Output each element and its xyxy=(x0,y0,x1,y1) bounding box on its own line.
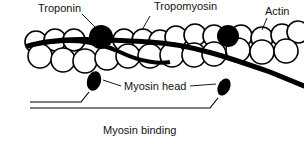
troponin-complex xyxy=(89,25,113,49)
actin-bead xyxy=(51,48,75,72)
myosin-head xyxy=(215,76,233,97)
caption: Myosin binding xyxy=(103,124,176,136)
leader-myosin-head-right xyxy=(190,84,216,86)
actin-bead xyxy=(73,49,97,73)
actin-bead xyxy=(28,44,52,68)
actin-bead xyxy=(250,40,274,64)
leader-myosin-head-left xyxy=(103,80,121,86)
actin-bead xyxy=(274,39,298,63)
label-troponin: Troponin xyxy=(38,2,81,14)
leader-tropomyosin xyxy=(142,16,150,30)
troponin-complex xyxy=(217,25,239,47)
label-myosin-head: Myosin head xyxy=(124,80,186,92)
thick-filament xyxy=(30,92,218,108)
myosin-binding-diagram: Troponin Tropomyosin Actin Myosin head M… xyxy=(0,0,304,144)
label-tropomyosin: Tropomyosin xyxy=(154,0,217,12)
label-actin: Actin xyxy=(265,5,289,17)
leader-troponin xyxy=(82,14,96,28)
